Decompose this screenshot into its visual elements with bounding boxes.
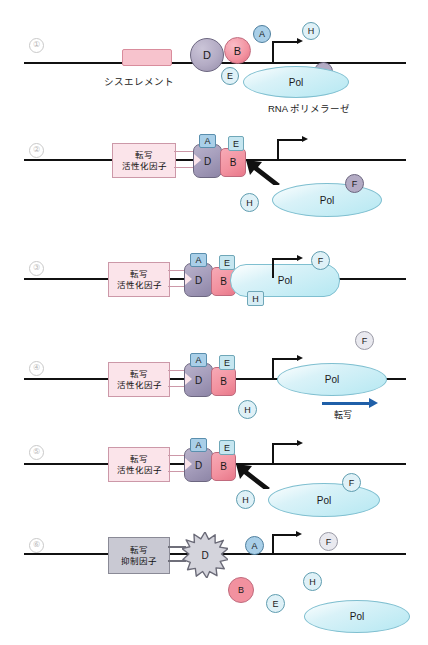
panel-4: ④ 転写 活性化因子 D A B E Pol H F 転写 xyxy=(0,330,428,425)
promoter-arrow-stem xyxy=(272,258,274,278)
transcription-activator-box: 転写 活性化因子 xyxy=(108,362,170,397)
transcription-activator-box: 転写 活性化因子 xyxy=(108,447,170,482)
promoter-arrow-shaft xyxy=(272,534,297,536)
transcription-direction-arrow-head xyxy=(369,398,378,408)
subunit-d-burst-label: D xyxy=(182,532,228,578)
subunit-b-body: B xyxy=(211,367,236,396)
activator-connector-top xyxy=(168,270,185,271)
subunit-f-circle: F xyxy=(319,532,338,551)
promoter-arrow-stem xyxy=(277,139,279,160)
subunit-a-tab: A xyxy=(190,438,207,452)
subunit-e-tab: E xyxy=(219,440,235,455)
activator-connector-top xyxy=(168,455,185,456)
promoter-arrow-shaft xyxy=(272,358,298,360)
subunit-h-circle: H xyxy=(238,400,257,419)
subunit-h-tab: H xyxy=(247,291,264,306)
promoter-arrow-head xyxy=(297,440,303,446)
subunit-b-circle: B xyxy=(228,577,254,603)
subunit-a-tab: A xyxy=(190,353,207,367)
subunit-f-circle: F xyxy=(345,174,364,193)
promoter-arrow-shaft xyxy=(277,139,303,141)
transcription-activator-box: 転写 活性化因子 xyxy=(108,262,170,297)
activator-connector-top xyxy=(168,370,185,371)
promoter-arrow-head xyxy=(296,531,302,537)
cis-element-label: シスエレメント xyxy=(104,74,174,88)
panel-5: ⑤ 転写 活性化因子 D A B E H Pol F xyxy=(0,425,428,520)
subunit-e-tab: E xyxy=(219,255,235,270)
rna-polymerase-shape: Pol xyxy=(304,600,410,633)
polymerase-release-arrow xyxy=(232,463,272,489)
subunit-a-tab: A xyxy=(190,253,207,267)
transcription-direction-arrow-shaft xyxy=(322,402,370,405)
promoter-arrow-shaft xyxy=(272,41,298,43)
promoter-arrow-head xyxy=(302,136,308,142)
activator-connector-bottom xyxy=(174,167,194,168)
activator-label-line2: 活性化因子 xyxy=(117,380,162,391)
activator-label-line1: 転写 xyxy=(130,269,148,280)
promoter-arrow-stem xyxy=(272,41,274,63)
panel-3: ③ 転写 活性化因子 D A B E Pol H F xyxy=(0,230,428,330)
transcription-activator-box: 転写 活性化因子 xyxy=(112,143,176,178)
activator-connector-top xyxy=(174,151,194,152)
subunit-a-circle: A xyxy=(253,25,271,43)
step-number-5: ⑤ xyxy=(29,445,44,460)
step-number-2: ② xyxy=(29,143,44,158)
subunit-d-notch xyxy=(185,373,192,385)
panel-6: ⑥ 転写 抑制因子 D A B E H F Pol xyxy=(0,520,428,645)
subunit-h-circle: H xyxy=(303,572,322,591)
promoter-arrow-shaft xyxy=(272,443,298,445)
cis-element-box xyxy=(122,49,172,66)
subunit-a-tab: A xyxy=(199,134,216,148)
repressor-label-line2: 抑制因子 xyxy=(121,556,157,567)
subunit-e-tab: E xyxy=(228,136,244,151)
promoter-arrow-stem xyxy=(272,534,274,553)
activator-connector-bottom xyxy=(168,286,185,287)
panel-1: ① シスエレメント D B A E H F Pol RNA ポリメラーゼ xyxy=(0,0,428,115)
activator-label-line2: 活性化因子 xyxy=(122,161,167,172)
activator-connector-bottom xyxy=(168,386,185,387)
activator-connector-bottom xyxy=(168,471,185,472)
rna-polymerase-shape: Pol xyxy=(272,183,382,217)
promoter-arrow-shaft xyxy=(272,258,298,260)
subunit-d-circle: D xyxy=(190,38,224,72)
promoter-arrow-head xyxy=(297,255,303,261)
rna-polymerase-shape: Pol xyxy=(277,363,387,396)
promoter-arrow-head xyxy=(297,38,303,44)
rna-polymerase-shape: Pol xyxy=(268,483,380,517)
step-number-6: ⑥ xyxy=(29,538,44,553)
activator-label-line1: 転写 xyxy=(130,369,148,380)
rna-polymerase-caption: RNA ポリメラーゼ xyxy=(268,101,350,115)
subunit-f-circle: F xyxy=(311,251,330,270)
promoter-arrow-stem xyxy=(272,358,274,378)
subunit-b-circle: B xyxy=(224,37,251,64)
repressor-label-line1: 転写 xyxy=(130,545,148,556)
step-number-3: ③ xyxy=(29,261,44,276)
transcription-repressor-box: 転写 抑制因子 xyxy=(108,537,170,574)
activator-label-line1: 転写 xyxy=(135,150,153,161)
subunit-f-circle: F xyxy=(355,331,374,350)
step-number-4: ④ xyxy=(29,361,44,376)
activator-label-line1: 転写 xyxy=(130,454,148,465)
subunit-a-circle: A xyxy=(245,536,264,555)
promoter-arrow-stem xyxy=(272,443,274,463)
subunit-d-notch xyxy=(194,154,201,166)
activator-label-line2: 活性化因子 xyxy=(117,280,162,291)
subunit-e-tab: E xyxy=(219,355,235,370)
subunit-f-circle: F xyxy=(342,473,361,492)
subunit-e-circle: E xyxy=(221,67,239,85)
activator-label-line2: 活性化因子 xyxy=(117,465,162,476)
promoter-arrow-head xyxy=(297,355,303,361)
subunit-d-notch xyxy=(185,273,192,285)
subunit-d-notch xyxy=(185,458,192,470)
polymerase-recruit-arrow xyxy=(242,159,282,185)
subunit-d-burst: D xyxy=(182,532,228,578)
panel-2: ② 転写 活性化因子 D A B E H Pol F xyxy=(0,115,428,230)
subunit-h-circle: H xyxy=(236,490,255,509)
subunit-h-circle: H xyxy=(240,193,259,212)
transcription-direction-label: 転写 xyxy=(334,408,352,421)
step-number-1: ① xyxy=(29,38,44,53)
subunit-e-circle: E xyxy=(266,594,285,613)
rna-polymerase-shape: Pol xyxy=(243,66,349,98)
subunit-h-circle: H xyxy=(302,22,320,40)
